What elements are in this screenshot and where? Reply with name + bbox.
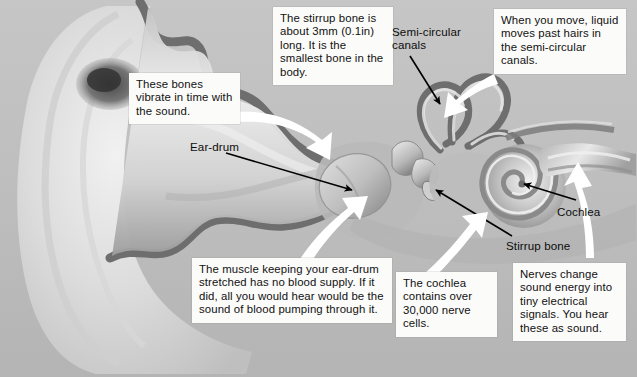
callout-bones-fact: These bones vibrate in time with the sou…	[129, 73, 240, 124]
callout-nerves-fact: Nerves change sound energy into tiny ele…	[513, 263, 626, 341]
callout-move-fact-text: When you move, liquid moves past hairs i…	[501, 14, 618, 66]
label-cochlea: Cochlea	[557, 205, 600, 218]
callout-cochlea-fact-text: The cochlea contains over 30,000 nerve c…	[403, 277, 472, 329]
callout-cochlea-fact: The cochlea contains over 30,000 nerve c…	[396, 272, 497, 337]
ear-diagram-figure: The stirrup bone is about 3mm (0.1in) lo…	[0, 0, 637, 377]
callout-stirrup-fact: The stirrup bone is about 3mm (0.1in) lo…	[273, 7, 393, 85]
label-stirrup-bone: Stirrup bone	[506, 239, 570, 252]
callout-bones-fact-text: These bones vibrate in time with the sou…	[136, 78, 232, 117]
callout-stirrup-fact-text: The stirrup bone is about 3mm (0.1in) lo…	[280, 12, 383, 78]
label-ear-drum: Ear-drum	[190, 140, 239, 153]
callout-move-fact: When you move, liquid moves past hairs i…	[494, 9, 626, 74]
callout-nerves-fact-text: Nerves change sound energy into tiny ele…	[520, 268, 612, 334]
label-semicircular-canals: Semi-circular canals	[392, 25, 484, 52]
callout-muscle-fact: The muscle keeping your ear-drum stretch…	[192, 258, 392, 323]
callout-muscle-fact-text: The muscle keeping your ear-drum stretch…	[199, 263, 384, 315]
